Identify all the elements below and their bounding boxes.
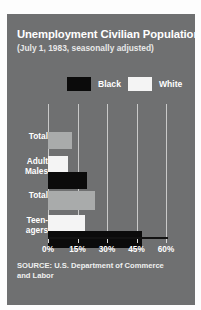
tick-mark xyxy=(107,239,108,243)
plot-area xyxy=(48,104,166,237)
tick-mark xyxy=(137,239,138,243)
row-label-teenagers-line2: agers xyxy=(7,226,48,236)
tick-label: 0% xyxy=(42,245,54,254)
bar-black-adult xyxy=(48,172,87,189)
row-label-total-black: Total xyxy=(7,191,48,201)
tick-label: 30% xyxy=(99,245,115,254)
chart-figure: Unemployment Civilian Population (July 1… xyxy=(0,0,201,310)
title-block: Unemployment Civilian Population (July 1… xyxy=(17,28,193,54)
row-label-adult-males: Adult Males xyxy=(7,157,48,176)
source-note-line1: SOURCE: U.S. Department of Commerce xyxy=(17,261,195,271)
bar-white-adult xyxy=(48,156,68,172)
gridline xyxy=(166,104,167,237)
x-axis-line xyxy=(48,237,168,239)
gridline xyxy=(137,104,138,237)
tick-mark xyxy=(166,239,167,243)
source-note: SOURCE: U.S. Department of Commerce and … xyxy=(17,261,195,280)
bar-white-total xyxy=(48,132,72,149)
page-title: Unemployment Civilian Population xyxy=(17,28,193,41)
legend-item-black: Black xyxy=(67,76,121,91)
bar-white-teen xyxy=(48,215,85,232)
chart-subtitle: (July 1, 1983, seasonally adjusted) xyxy=(17,42,193,54)
row-label-teenagers: Teen- agers xyxy=(7,216,48,235)
legend: Black White xyxy=(67,76,195,92)
tick-label: 60% xyxy=(158,245,174,254)
bar-black-total xyxy=(48,191,95,210)
row-label-adult-males-line2: Males xyxy=(7,167,48,177)
tick-mark xyxy=(48,239,49,243)
row-label-total-white: Total xyxy=(7,132,48,142)
legend-item-white: White xyxy=(128,76,182,91)
source-note-line2: and Labor xyxy=(17,271,195,281)
tick-label: 45% xyxy=(128,245,144,254)
legend-swatch-black xyxy=(67,77,91,91)
gridline xyxy=(107,104,108,237)
legend-label-black: Black xyxy=(98,79,121,89)
tick-mark xyxy=(78,239,79,243)
legend-label-white: White xyxy=(159,79,182,89)
tick-label: 15% xyxy=(69,245,85,254)
chart-panel: Unemployment Civilian Population (July 1… xyxy=(7,14,195,305)
legend-swatch-white xyxy=(128,77,152,91)
